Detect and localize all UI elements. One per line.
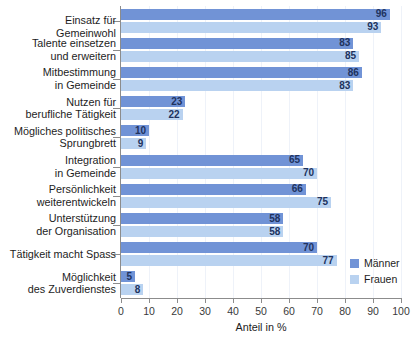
bar-value-label: 85	[345, 51, 356, 61]
bar-maenner: 58	[121, 213, 283, 224]
x-tick	[317, 298, 318, 303]
x-tick	[401, 298, 402, 303]
legend-swatch	[350, 259, 359, 268]
category-label: Tätigkeit macht Spass	[4, 248, 116, 261]
x-tick	[289, 298, 290, 303]
bar-chart: 0102030405060708090100 Einsatz für Gemei…	[0, 0, 419, 343]
x-tick-label: 50	[255, 305, 267, 317]
bar-maenner: 86	[121, 67, 362, 78]
gridline	[205, 6, 206, 298]
bar-maenner: 10	[121, 125, 149, 136]
bar-value-label: 58	[269, 214, 280, 224]
bar-value-label: 86	[348, 68, 359, 78]
bar-value-label: 10	[135, 126, 146, 136]
bar-maenner: 23	[121, 96, 185, 107]
category-label: Nutzen für berufliche Tätigkeit	[4, 96, 116, 121]
bar-value-label: 70	[303, 243, 314, 253]
x-tick-label: 70	[311, 305, 323, 317]
bar-value-label: 77	[322, 256, 333, 266]
category-label: Integration in Gemeinde	[4, 154, 116, 179]
bar-value-label: 5	[126, 272, 132, 282]
category-label: Persönlichkeit weiterentwickeln	[4, 183, 116, 208]
x-tick	[261, 298, 262, 303]
legend-label: Männer	[364, 257, 400, 269]
x-tick	[149, 298, 150, 303]
x-tick-label: 0	[118, 305, 124, 317]
x-tick-label: 40	[227, 305, 239, 317]
category-label: Möglichkeit des Zuverdienstes	[4, 271, 116, 296]
category-label: Mitbestimmung in Gemeinde	[4, 66, 116, 91]
bar-value-label: 83	[339, 81, 350, 91]
category-label: Einsatz für Gemeinwohl	[4, 14, 116, 39]
gridline	[373, 6, 374, 298]
x-tick-label: 60	[283, 305, 295, 317]
bar-value-label: 22	[168, 110, 179, 120]
gridline	[401, 6, 402, 298]
bar-frauen: 93	[121, 22, 381, 33]
x-tick	[121, 298, 122, 303]
bar-maenner: 65	[121, 155, 303, 166]
category-label: Unterstützung der Organisation	[4, 212, 116, 237]
bar-value-label: 9	[138, 139, 144, 149]
x-tick	[233, 298, 234, 303]
bar-value-label: 23	[171, 97, 182, 107]
x-tick-label: 80	[339, 305, 351, 317]
bar-frauen: 9	[121, 138, 146, 149]
bar-maenner: 5	[121, 271, 135, 282]
bar-maenner: 70	[121, 242, 317, 253]
bar-value-label: 8	[135, 285, 141, 295]
x-axis-title: Anteil in %	[121, 321, 401, 333]
bar-value-label: 65	[289, 155, 300, 165]
gridline	[149, 6, 150, 298]
bar-frauen: 8	[121, 284, 143, 295]
bar-value-label: 66	[292, 184, 303, 194]
bar-value-label: 58	[269, 227, 280, 237]
bar-frauen: 77	[121, 255, 337, 266]
gridline	[317, 6, 318, 298]
bar-value-label: 75	[317, 197, 328, 207]
bar-frauen: 22	[121, 109, 183, 120]
bar-value-label: 83	[339, 38, 350, 48]
x-tick-label: 90	[367, 305, 379, 317]
category-label: Talente einsetzen und erweitern	[4, 37, 116, 62]
gridline	[289, 6, 290, 298]
x-tick-label: 10	[143, 305, 155, 317]
bar-value-label: 93	[367, 22, 378, 32]
gridline	[261, 6, 262, 298]
bar-maenner: 66	[121, 184, 306, 195]
x-tick	[373, 298, 374, 303]
legend-item: Männer	[350, 256, 400, 270]
bar-value-label: 70	[303, 168, 314, 178]
gridline	[233, 6, 234, 298]
x-tick-label: 30	[199, 305, 211, 317]
bar-maenner: 96	[121, 9, 390, 20]
x-tick	[205, 298, 206, 303]
legend-swatch	[350, 275, 359, 284]
category-label: Mögliches politisches Sprungbrett	[4, 125, 116, 150]
legend-label: Frauen	[364, 273, 397, 285]
legend-item: Frauen	[350, 272, 400, 286]
bar-value-label: 96	[376, 9, 387, 19]
bar-frauen: 85	[121, 51, 359, 62]
gridline	[177, 6, 178, 298]
x-tick	[345, 298, 346, 303]
bar-frauen: 83	[121, 80, 353, 91]
bar-frauen: 75	[121, 197, 331, 208]
bar-frauen: 70	[121, 168, 317, 179]
x-tick-label: 20	[171, 305, 183, 317]
legend: MännerFrauen	[350, 256, 400, 288]
x-tick-label: 100	[392, 305, 410, 317]
bar-frauen: 58	[121, 226, 283, 237]
x-tick	[177, 298, 178, 303]
plot-area	[121, 6, 401, 298]
y-axis-line	[120, 6, 121, 298]
bar-maenner: 83	[121, 38, 353, 49]
